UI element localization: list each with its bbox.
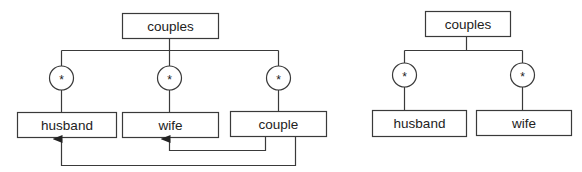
root-node-couples[interactable]: couples xyxy=(123,14,219,39)
multiplicity-circle-husband: * xyxy=(50,66,74,90)
multiplicity-label: * xyxy=(276,73,281,87)
child-node-couple[interactable]: couple xyxy=(231,112,327,137)
child-node-wife[interactable]: wife xyxy=(123,113,219,138)
root-node-label: couples xyxy=(147,19,194,34)
multiplicity-label: * xyxy=(167,73,172,87)
child-node-label: wife xyxy=(157,118,182,133)
reference-arrow-couple-to-wife xyxy=(170,137,266,151)
child-node-wife[interactable]: wife xyxy=(477,111,572,136)
diagram-canvas: couples * husband * wife xyxy=(0,0,582,172)
child-node-label: husband xyxy=(394,116,446,131)
right-diagram: couples * husband * wife xyxy=(373,12,572,137)
multiplicity-label: * xyxy=(402,70,407,84)
root-node-label: couples xyxy=(445,17,492,32)
multiplicity-circle-husband: * xyxy=(393,63,417,87)
root-node-couples[interactable]: couples xyxy=(426,12,511,37)
multiplicity-label: * xyxy=(520,70,525,84)
multiplicity-circle-wife: * xyxy=(511,63,535,87)
multiplicity-circle-wife: * xyxy=(158,66,182,90)
child-node-husband[interactable]: husband xyxy=(373,111,467,137)
left-diagram: couples * husband * wife xyxy=(18,14,327,166)
multiplicity-circle-couple: * xyxy=(267,66,291,90)
child-node-husband[interactable]: husband xyxy=(18,113,117,138)
child-node-label: couple xyxy=(259,117,299,132)
child-node-label: husband xyxy=(41,118,93,133)
child-node-label: wife xyxy=(511,116,536,131)
multiplicity-label: * xyxy=(59,73,64,87)
